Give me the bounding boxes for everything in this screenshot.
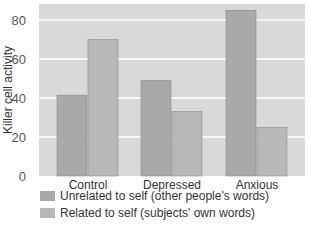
y-tick-label: 0: [19, 169, 26, 184]
y-tick-label: 80: [12, 13, 26, 28]
legend-swatch: [40, 208, 55, 218]
bar-anxious-unrelated: [226, 10, 256, 176]
bar-chart: 020406080 ControlDepressedAnxious Killer…: [0, 0, 311, 231]
bar-depressed-related: [172, 112, 202, 176]
bar-depressed-unrelated: [141, 80, 171, 176]
bar-anxious-related: [257, 127, 287, 176]
legend-label: Related to self (subjects' own words): [60, 206, 255, 220]
legend-label: Unrelated to self (other people's words): [60, 189, 269, 203]
y-axis-label: Killer cell activity: [1, 46, 15, 134]
legend-swatch: [40, 191, 55, 201]
bar-control-related: [88, 40, 118, 177]
bar-control-unrelated: [57, 95, 87, 176]
